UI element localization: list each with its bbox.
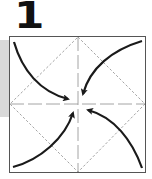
paper-square xyxy=(10,37,146,173)
origami-diagram xyxy=(0,0,152,179)
